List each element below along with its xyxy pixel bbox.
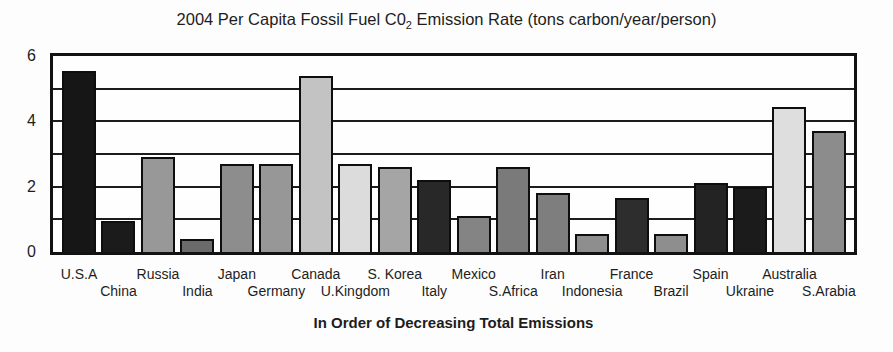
x-label-canada: Canada	[291, 266, 340, 282]
x-label-russia: Russia	[137, 266, 180, 282]
gridline-4	[53, 120, 854, 122]
x-label-safrica: S.Africa	[489, 283, 538, 299]
bar-ukraine	[733, 187, 767, 252]
y-axis: 6420	[0, 0, 42, 352]
x-label-iran: Iran	[541, 266, 565, 282]
bar-usa	[62, 71, 96, 252]
x-label-france: France	[610, 266, 654, 282]
y-tick-label-0: 0	[6, 243, 36, 261]
bar-china	[101, 221, 135, 252]
bar-ukingdom	[338, 164, 372, 252]
bar-australia	[772, 107, 806, 252]
bar-sarabia	[812, 131, 846, 252]
y-tick-label-6: 6	[6, 47, 36, 65]
plot-area	[50, 53, 857, 255]
x-label-ukraine: Ukraine	[726, 283, 774, 299]
bar-italy	[417, 180, 451, 252]
bar-brazil	[654, 234, 688, 252]
y-tick-label-4: 4	[6, 112, 36, 130]
gridline-5	[53, 88, 854, 90]
x-axis-caption: In Order of Decreasing Total Emissions	[50, 314, 857, 331]
chart-title-suffix: Emission Rate (tons carbon/year/person)	[412, 10, 716, 28]
bar-safrica	[496, 167, 530, 252]
x-label-sarabia: S.Arabia	[802, 283, 856, 299]
x-label-india: India	[182, 283, 212, 299]
x-label-spain: Spain	[693, 266, 729, 282]
bar-canada	[299, 76, 333, 252]
bar-india	[180, 239, 214, 252]
bar-indonesia	[575, 234, 609, 252]
x-label-ukingdom: U.Kingdom	[321, 283, 390, 299]
bar-skorea	[378, 167, 412, 252]
x-label-china: China	[100, 283, 137, 299]
x-label-italy: Italy	[421, 283, 447, 299]
chart-title: 2004 Per Capita Fossil Fuel C02 Emission…	[0, 10, 893, 31]
scanned-bar-chart-figure: 2004 Per Capita Fossil Fuel C02 Emission…	[0, 0, 893, 352]
bar-spain	[694, 183, 728, 252]
bar-japan	[220, 164, 254, 252]
bar-france	[615, 198, 649, 252]
x-label-mexico: Mexico	[452, 266, 496, 282]
x-label-usa: U.S.A	[61, 266, 98, 282]
x-label-germany: Germany	[248, 283, 306, 299]
chart-title-prefix: 2004 Per Capita Fossil Fuel C0	[177, 10, 406, 28]
x-label-indonesia: Indonesia	[562, 283, 623, 299]
x-label-japan: Japan	[218, 266, 256, 282]
gridline-3	[53, 153, 854, 155]
bar-mexico	[457, 216, 491, 252]
x-label-brazil: Brazil	[654, 283, 689, 299]
bar-iran	[536, 193, 570, 252]
bar-germany	[259, 164, 293, 252]
x-label-skorea: S. Korea	[368, 266, 422, 282]
x-label-australia: Australia	[762, 266, 816, 282]
x-axis-labels: U.S.AChinaRussiaIndiaJapanGermanyCanadaU…	[53, 266, 854, 306]
y-tick-label-2: 2	[6, 178, 36, 196]
bar-russia	[141, 157, 175, 252]
